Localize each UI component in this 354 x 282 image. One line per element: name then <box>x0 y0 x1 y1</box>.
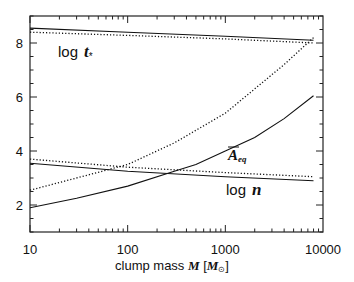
axis-tick-labels: 101001000100002468 <box>16 36 341 257</box>
y-tick-label: 4 <box>16 144 23 159</box>
y-tick-label: 6 <box>16 90 23 105</box>
x-axis-title: clump mass M [M⊙] <box>115 258 229 274</box>
x-tick-label: 10000 <box>305 242 341 257</box>
annotation-log-t-star: logt* <box>58 42 93 62</box>
x-tick-label: 1000 <box>211 242 240 257</box>
y-tick-label: 2 <box>16 198 23 213</box>
x-tick-label: 10 <box>23 242 37 257</box>
annotation-a-eq: Aeq <box>227 147 247 164</box>
series-line <box>30 96 314 208</box>
chart: 101001000100002468 clump mass M [M⊙] log… <box>0 0 354 282</box>
y-tick-label: 8 <box>16 36 23 51</box>
series-line <box>30 38 314 191</box>
svg-text:Aeq: Aeq <box>227 147 247 164</box>
annotation-log-n: logn <box>226 180 262 199</box>
x-tick-label: 100 <box>117 242 139 257</box>
